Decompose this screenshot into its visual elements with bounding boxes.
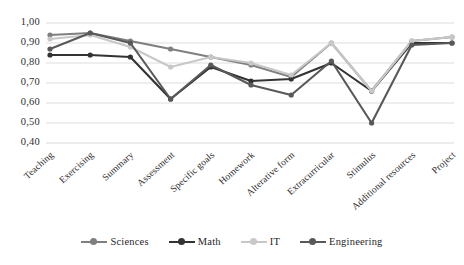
data-point	[449, 40, 454, 45]
series-line	[50, 43, 452, 99]
y-axis-tick-label: 0,70	[6, 76, 40, 87]
data-point	[409, 42, 414, 47]
data-point	[329, 58, 334, 63]
data-point	[329, 40, 334, 45]
legend-label: IT	[270, 236, 280, 247]
y-axis-tick-label: 0,50	[6, 116, 40, 127]
data-point	[168, 64, 173, 69]
data-point	[248, 82, 253, 87]
data-point	[88, 30, 93, 35]
data-point	[449, 34, 454, 39]
legend-item[interactable]: IT	[241, 236, 280, 247]
chart-legend: SciencesMathITEngineering	[0, 236, 464, 247]
legend-label: Sciences	[110, 236, 148, 247]
data-point	[248, 60, 253, 65]
line-chart: 1,000,900,800,700,600,500,40 TeachingExe…	[0, 0, 464, 265]
data-point	[168, 96, 173, 101]
legend-swatch-icon	[169, 237, 195, 247]
y-axis-tick-label: 0,60	[6, 96, 40, 107]
y-axis-tick-label: 0,40	[6, 136, 40, 147]
data-point	[47, 36, 52, 41]
data-point	[289, 92, 294, 97]
data-point	[168, 46, 173, 51]
data-point	[208, 62, 213, 67]
data-point	[369, 120, 374, 125]
legend-item[interactable]: Engineering	[300, 236, 383, 247]
y-axis-tick-label: 0,80	[6, 56, 40, 67]
legend-item[interactable]: Math	[169, 236, 221, 247]
legend-label: Math	[198, 236, 221, 247]
data-point	[369, 88, 374, 93]
chart-plot-area	[0, 0, 464, 265]
y-axis-tick-label: 1,00	[6, 16, 40, 27]
data-point	[47, 46, 52, 51]
series-layer	[47, 30, 454, 125]
series-line	[50, 33, 452, 123]
data-point	[128, 40, 133, 45]
y-axis-tick-label: 0,90	[6, 36, 40, 47]
data-point	[208, 54, 213, 59]
data-point	[289, 72, 294, 77]
data-point	[128, 54, 133, 59]
legend-swatch-icon	[300, 237, 326, 247]
legend-swatch-icon	[241, 237, 267, 247]
data-point	[88, 52, 93, 57]
data-point	[47, 52, 52, 57]
legend-swatch-icon	[81, 237, 107, 247]
legend-label: Engineering	[329, 236, 383, 247]
legend-item[interactable]: Sciences	[81, 236, 148, 247]
